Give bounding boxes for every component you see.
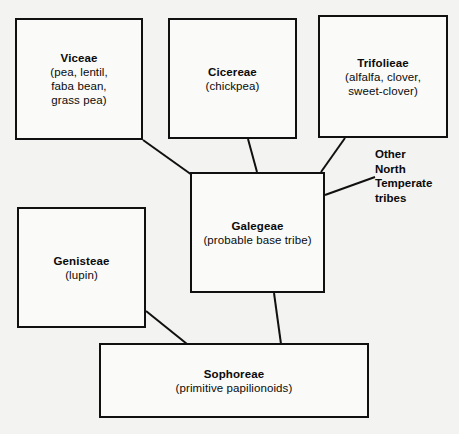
edge-trifolieae-galegeae [321,138,345,172]
node-genisteae-subtitle: (lupin) [65,268,98,282]
node-galegeae-subtitle: (probable base tribe) [203,233,311,247]
node-trifolieae[interactable]: Trifolieae (alfalfa, clover, sweet-clove… [318,15,448,138]
node-trifolieae-title: Trifolieae [357,56,409,70]
node-cicereae-title: Cicereae [208,65,257,79]
edge-cicereae-galegeae [248,139,257,172]
node-genisteae[interactable]: Genisteae (lupin) [17,207,146,328]
node-cicereae-subtitle: (chickpea) [205,79,259,93]
node-galegeae-title: Galegeae [232,219,284,233]
label-other-north-temperate-tribes: Other North Temperate tribes [375,147,459,205]
node-viceae-subtitle: (pea, lentil, faba bean, grass pea) [50,65,108,107]
node-galegeae[interactable]: Galegeae (probable base tribe) [190,172,325,293]
node-trifolieae-subtitle: (alfalfa, clover, sweet-clover) [345,70,421,98]
tribe-relationship-diagram: Viceae (pea, lentil, faba bean, grass pe… [0,0,459,434]
node-viceae[interactable]: Viceae (pea, lentil, faba bean, grass pe… [15,18,143,140]
node-sophoreae[interactable]: Sophoreae (primitive papilionoids) [99,343,369,418]
node-sophoreae-title: Sophoreae [204,367,264,381]
edge-viceae-galegeae [143,140,192,175]
edge-genisteae-sophoreae [146,311,187,344]
node-genisteae-title: Genisteae [54,254,110,268]
edge-galegeae-other-tribes [325,177,375,195]
edge-galegeae-sophoreae [274,293,281,344]
node-viceae-title: Viceae [61,51,98,65]
node-sophoreae-subtitle: (primitive papilionoids) [176,381,293,395]
node-cicereae[interactable]: Cicereae (chickpea) [168,18,297,139]
